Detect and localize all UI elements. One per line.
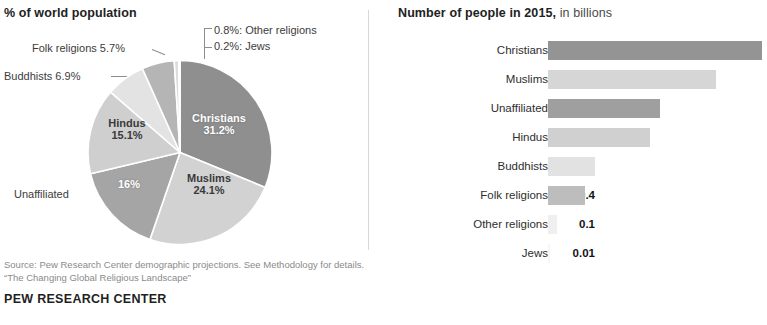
- pie-label-unaffiliated: 16%: [108, 178, 150, 190]
- bar-fill-folk-religions: [548, 186, 585, 205]
- bar-row-other-religions: Other religions0.1: [398, 215, 767, 237]
- bar-row-buddhists: Buddhists0.5: [398, 157, 767, 179]
- bar-label-folk-religions: Folk religions: [480, 189, 548, 201]
- pie-label-hindus-name: Hindus: [108, 117, 145, 129]
- bar-fill-unaffiliated: [548, 99, 660, 118]
- bar-label-buddhists: Buddhists: [497, 160, 548, 172]
- bar-value-other-religions: 0.1: [553, 218, 595, 230]
- pie-label-muslims: Muslims 24.1%: [172, 172, 246, 197]
- leader-line-folk-religions: [152, 49, 165, 55]
- pie-chart-svg: [88, 60, 272, 245]
- bar-fill-other-religions: [548, 215, 557, 234]
- pie-label-christians: Christians 31.2%: [180, 112, 258, 137]
- bar-track-unaffiliated: [548, 99, 660, 118]
- pie-panel-title: % of world population: [4, 6, 137, 20]
- bar-row-muslims: Muslims1.8: [398, 70, 767, 92]
- panel-divider: [368, 10, 369, 250]
- callout-other-religions: 0.8%: Other religions: [214, 24, 317, 37]
- leader-line-jews: [204, 47, 212, 48]
- pie-label-christians-name: Christians: [192, 112, 246, 124]
- bar-fill-buddhists: [548, 157, 595, 176]
- pie-label-muslims-name: Muslims: [187, 172, 231, 184]
- pie-chart: Christians 31.2% Muslims 24.1% 16% Hindu…: [88, 60, 272, 245]
- callout-jews: 0.2%: Jews: [214, 40, 270, 53]
- bar-track-christians: [548, 41, 762, 60]
- pie-label-christians-value: 31.2%: [203, 124, 234, 136]
- bar-track-other-religions: [548, 215, 557, 234]
- callout-unaffiliated: Unaffiliated: [14, 188, 69, 201]
- brand-pew-research-center: PEW RESEARCH CENTER: [4, 292, 744, 306]
- pie-label-hindus: Hindus 15.1%: [94, 117, 160, 142]
- source-line-1: Source: Pew Research Center demographic …: [4, 258, 744, 271]
- bar-track-buddhists: [548, 157, 595, 176]
- bar-fill-muslims: [548, 70, 716, 89]
- bar-row-unaffiliated: Unaffiliated1.2: [398, 99, 767, 121]
- bar-label-muslims: Muslims: [506, 73, 548, 85]
- bar-chart: Christians2.3BMuslims1.8Unaffiliated1.2H…: [398, 8, 767, 253]
- bar-fill-christians: [548, 41, 762, 60]
- callout-folk-religions: Folk religions 5.7%: [32, 42, 125, 55]
- source-line-2: “The Changing Global Religious Landscape…: [4, 271, 744, 284]
- bar-label-christians: Christians: [497, 44, 548, 56]
- bar-label-unaffiliated: Unaffiliated: [491, 102, 548, 114]
- pie-label-muslims-value: 24.1%: [193, 184, 224, 196]
- leader-line-other-religions-vertical: [204, 28, 205, 48]
- leader-line-jews-stem: [204, 47, 205, 59]
- pie-slice-group: [88, 61, 272, 245]
- callout-buddhists: Buddhists 6.9%: [4, 70, 80, 83]
- bar-track-folk-religions: [548, 186, 585, 205]
- infographic-root: % of world population 0.8%: Other religi…: [0, 0, 767, 325]
- bar-label-other-religions: Other religions: [473, 218, 548, 230]
- bar-label-hindus: Hindus: [512, 131, 548, 143]
- pie-label-hindus-value: 15.1%: [111, 129, 142, 141]
- bar-row-folk-religions: Folk religions0.4: [398, 186, 767, 208]
- footer: Source: Pew Research Center demographic …: [4, 258, 744, 306]
- bar-row-hindus: Hindus1.1: [398, 128, 767, 150]
- bar-row-christians: Christians2.3B: [398, 41, 767, 63]
- pie-label-unaffiliated-value: 16%: [118, 178, 140, 190]
- bar-track-hindus: [548, 128, 650, 147]
- bar-track-muslims: [548, 70, 716, 89]
- leader-line-other-religions: [204, 28, 212, 29]
- bar-fill-hindus: [548, 128, 650, 147]
